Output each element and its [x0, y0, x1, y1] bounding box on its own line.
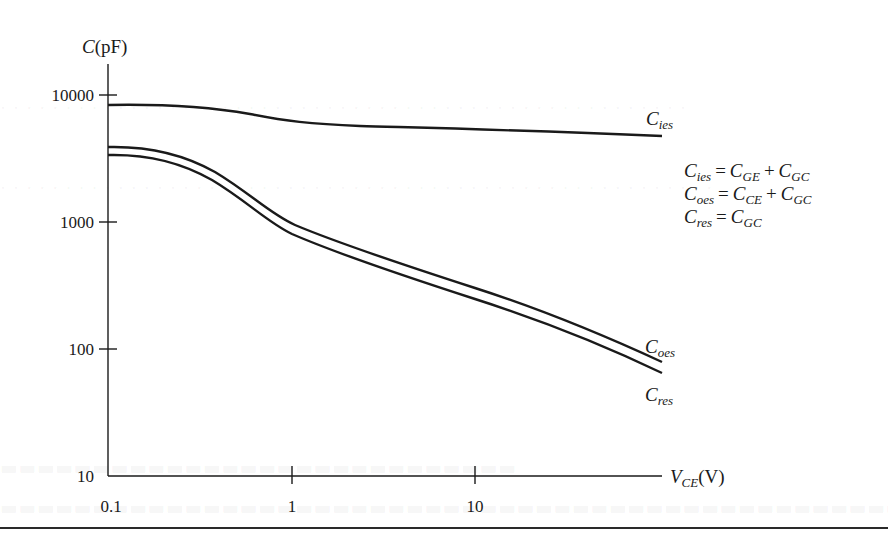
coes-label: Coes: [645, 336, 675, 360]
y-axis-title: C(pF): [82, 36, 127, 58]
y-tick-label: 10000: [52, 86, 95, 105]
y-tick-label: 1000: [60, 213, 94, 232]
x-tick-label: 1: [288, 497, 297, 516]
x-tick-label: 10: [467, 497, 484, 516]
equation-cies: Cies=CGE+CGC: [684, 160, 810, 184]
x-ticks: [292, 466, 475, 484]
equation-coes: Coes=CCE+CGC: [684, 183, 812, 207]
cies-label: Cies: [646, 108, 673, 132]
x-axis-title: VCE(V): [670, 466, 725, 490]
cres-curve: [108, 155, 662, 373]
equations-legend: Cies=CGE+CGC Coes=CCE+CGC Cres=CGC: [684, 160, 812, 230]
cres-label: Cres: [645, 384, 673, 408]
x-tick-label: 0.1: [100, 497, 121, 516]
y-tick-label: 10: [77, 467, 94, 486]
equation-cres: Cres=CGC: [684, 206, 762, 230]
cies-curve: [108, 105, 662, 136]
page-bottom-rule: [0, 527, 888, 529]
capacitance-chart: 10000 1000 100 10 0.1 1 10 C(pF) VCE(V) …: [0, 0, 888, 548]
y-tick-label: 100: [69, 340, 95, 359]
coes-curve: [108, 147, 662, 362]
